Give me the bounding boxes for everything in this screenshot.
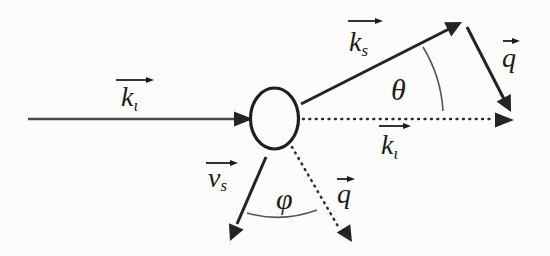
label-q-lower: q [337, 176, 355, 209]
k-scattered-symbol: k [349, 26, 362, 57]
vector-k-incident [28, 112, 253, 127]
k-incident-symbol: k [121, 81, 134, 112]
v-sound-overbar-arrow-icon [230, 160, 238, 166]
k-incident-subscript: ι [133, 96, 138, 115]
q-lower-label: q [337, 178, 351, 209]
q-upper-label: q [502, 42, 516, 73]
v-sound-label: vs [208, 162, 227, 195]
theta-angle-arc [423, 47, 443, 111]
scattering-center-circle [251, 88, 299, 149]
k-incident-dotted-symbol: k [381, 129, 394, 160]
k-scattered-line [301, 29, 449, 104]
k-incident-dotted-overbar-arrow-icon [403, 123, 411, 129]
label-k-scattered: ks [348, 18, 383, 60]
theta-angle-label: θ [391, 73, 406, 106]
label-k-incident: kι [116, 77, 154, 115]
k-scattered-subscript: s [361, 41, 368, 60]
k-scattered-label: ks [349, 26, 368, 60]
k-incident-dotted-subscript: ι [393, 144, 398, 163]
k-scattered-overbar-arrow-icon [375, 18, 383, 24]
vector-v-sound [229, 157, 266, 241]
v-sound-subscript: s [220, 176, 227, 195]
diagram-canvas: kι ks kι q q vs [0, 0, 550, 256]
k-incident-dotted-arrowhead-icon [495, 113, 514, 128]
label-k-incident-dotted: kι [379, 123, 411, 163]
k-incident-label: kι [121, 81, 138, 115]
v-sound-arrowhead-icon [229, 223, 244, 241]
k-incident-overbar-arrow-icon [146, 77, 154, 83]
q-lower-arrowhead-icon [337, 224, 352, 242]
label-q-upper: q [502, 38, 520, 73]
q-upper-line [467, 27, 505, 101]
label-v-sound: vs [206, 160, 238, 195]
vector-k-scattered [301, 22, 462, 104]
v-sound-symbol: v [208, 162, 221, 193]
phi-angle-label: φ [276, 182, 293, 215]
scattering-vector-diagram: kι ks kι q q vs [0, 0, 550, 256]
k-incident-dotted-label: kι [381, 129, 398, 163]
